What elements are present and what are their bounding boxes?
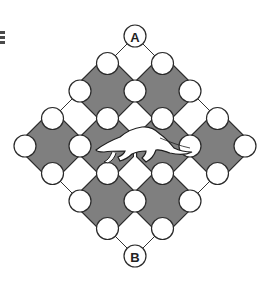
node xyxy=(69,80,91,102)
node-label-a: A xyxy=(130,30,140,45)
node xyxy=(152,218,174,240)
node-label-b: B xyxy=(130,250,139,265)
node xyxy=(42,163,64,185)
node xyxy=(69,135,91,157)
node xyxy=(97,108,119,130)
node xyxy=(124,80,146,102)
puzzle-board: AB xyxy=(0,0,272,288)
node xyxy=(152,163,174,185)
node xyxy=(179,190,201,212)
node xyxy=(207,108,229,130)
node xyxy=(152,53,174,75)
node xyxy=(97,218,119,240)
node xyxy=(97,163,119,185)
node xyxy=(179,80,201,102)
node xyxy=(124,190,146,212)
node xyxy=(207,163,229,185)
node xyxy=(97,53,119,75)
node xyxy=(152,108,174,130)
node xyxy=(234,135,256,157)
node xyxy=(14,135,36,157)
node xyxy=(42,108,64,130)
node xyxy=(69,190,91,212)
